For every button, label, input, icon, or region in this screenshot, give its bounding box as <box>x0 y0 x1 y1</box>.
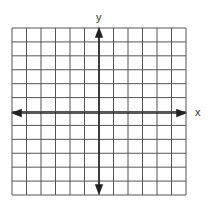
y-axis-down-arrow-icon <box>96 185 102 193</box>
y-axis-up-arrow-icon <box>96 29 102 37</box>
y-axis-label: y <box>96 12 102 23</box>
x-axis-label: x <box>195 107 201 118</box>
x-axis-left-arrow-icon <box>13 110 21 116</box>
coordinate-grid <box>0 0 209 209</box>
x-axis-right-arrow-icon <box>177 110 185 116</box>
